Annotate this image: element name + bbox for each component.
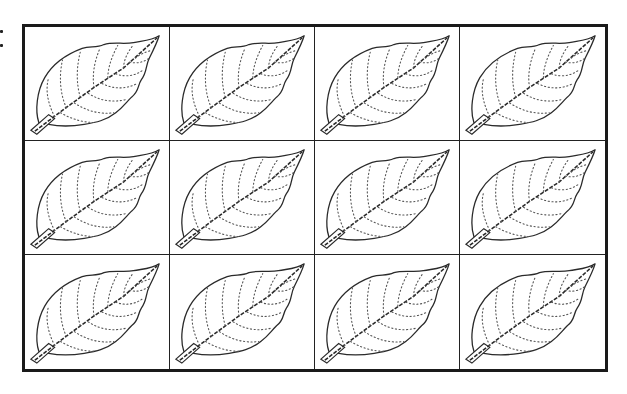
leaf-icon [25, 27, 169, 140]
grid-cell [25, 255, 170, 369]
leaf-icon [25, 141, 169, 254]
leaf-grid [22, 24, 608, 372]
leaf-icon [315, 141, 459, 254]
grid-cell [460, 141, 605, 255]
grid-cell [25, 27, 170, 141]
leaf-icon [315, 255, 459, 369]
leaf-icon [460, 141, 605, 254]
grid-cell [315, 141, 460, 255]
grid-cell [25, 141, 170, 255]
leaf-icon [25, 255, 169, 369]
leaf-icon [460, 27, 605, 140]
grid-cell [170, 141, 315, 255]
leaf-icon [170, 141, 314, 254]
leaf-icon [170, 255, 314, 369]
colon-mark [0, 28, 4, 48]
leaf-icon [460, 255, 605, 369]
leaf-icon [170, 27, 314, 140]
grid-cell [460, 27, 605, 141]
grid-cell [315, 27, 460, 141]
grid-cell [460, 255, 605, 369]
grid-cell [315, 255, 460, 369]
grid-cell [170, 27, 315, 141]
leaf-icon [315, 27, 459, 140]
grid-cell [170, 255, 315, 369]
